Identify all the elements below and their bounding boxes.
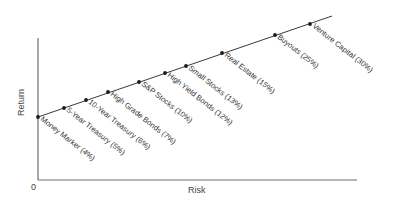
risk-return-chart: Money Marker (4%)5-Year Treasury (5%)10-… <box>0 0 395 197</box>
data-point <box>137 80 141 84</box>
data-point-label: Venture Capital (30%) <box>311 21 375 74</box>
data-point <box>106 90 110 94</box>
origin-label: 0 <box>31 182 36 192</box>
data-point <box>308 22 312 26</box>
data-point-label: Buyouts (25%) <box>276 32 321 70</box>
data-point <box>36 115 40 119</box>
data-point <box>62 106 66 110</box>
data-point <box>273 33 277 37</box>
data-points: Money Marker (4%)5-Year Treasury (5%)10-… <box>36 21 375 162</box>
data-point <box>84 98 88 102</box>
data-point <box>184 64 188 68</box>
x-axis-label: Risk <box>188 185 206 195</box>
data-point-label: 5-Year Treasury (5%) <box>65 105 128 157</box>
data-point <box>163 71 167 75</box>
data-point <box>220 51 224 55</box>
y-axis-label: Return <box>16 89 26 116</box>
data-point-label: Real Estate (15%) <box>223 50 277 95</box>
